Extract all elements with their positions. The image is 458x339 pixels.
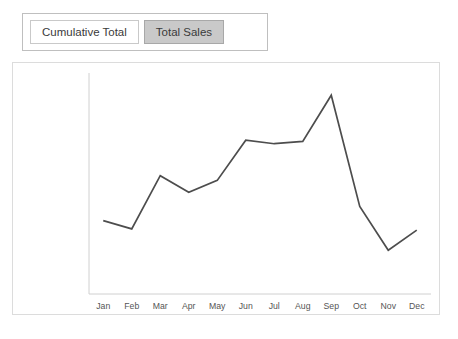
x-axis-tick-label: Jun <box>239 301 253 311</box>
x-axis-tick-label: Aug <box>295 301 310 311</box>
x-axis-tick-label: Jan <box>96 301 110 311</box>
plot-area: £90,000.00£80,000.00£70,000.00£60,000.00… <box>13 63 439 314</box>
x-axis-tick-label: May <box>209 301 225 311</box>
x-axis-tick-labels: JanFebMarAprMayJunJulAugSepOctNovDec <box>13 63 439 314</box>
x-axis-tick-label: Apr <box>182 301 196 311</box>
x-axis-tick-label: Sep <box>324 301 339 311</box>
x-axis-tick-label: Nov <box>381 301 396 311</box>
x-axis-tick-label: Feb <box>124 301 139 311</box>
x-axis-tick-label: Jul <box>269 301 280 311</box>
tab-cumulative-total[interactable]: Cumulative Total <box>30 20 139 44</box>
chart-panel: £90,000.00£80,000.00£70,000.00£60,000.00… <box>12 62 440 315</box>
x-axis-tick-label: Mar <box>153 301 168 311</box>
tab-total-sales[interactable]: Total Sales <box>144 20 224 44</box>
x-axis-tick-label: Oct <box>353 301 367 311</box>
chart-view-tab-bar: Cumulative Total Total Sales <box>22 13 268 51</box>
x-axis-tick-label: Dec <box>409 301 424 311</box>
